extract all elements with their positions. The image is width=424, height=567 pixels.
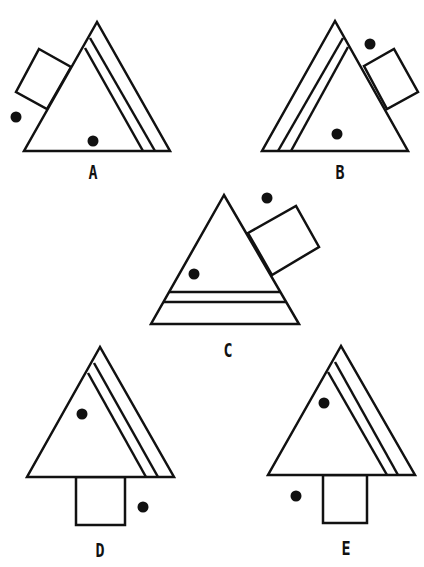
- dot-marker: [138, 502, 149, 513]
- option-label-c: C: [223, 340, 232, 360]
- option-figure-d[interactable]: [27, 347, 174, 525]
- dot-marker: [332, 129, 343, 140]
- square-shape: [323, 475, 367, 523]
- square-shape: [76, 477, 125, 525]
- triangle-shape: [27, 347, 174, 477]
- option-label-e: E: [341, 538, 350, 558]
- option-label-b: B: [335, 162, 344, 182]
- dot-marker: [11, 112, 22, 123]
- dot-marker: [291, 491, 302, 502]
- option-figure-a[interactable]: [11, 22, 171, 151]
- dot-marker: [365, 39, 376, 50]
- triangle-shape: [268, 346, 415, 475]
- dot-marker: [88, 136, 99, 147]
- dot-marker: [77, 409, 88, 420]
- dot-marker: [262, 193, 273, 204]
- option-figure-c[interactable]: [151, 193, 319, 325]
- option-label-a: A: [88, 162, 97, 182]
- dot-marker: [319, 398, 330, 409]
- option-figure-b[interactable]: [262, 21, 418, 151]
- option-label-d: D: [95, 540, 104, 560]
- option-figure-e[interactable]: [268, 346, 415, 523]
- dot-marker: [189, 269, 200, 280]
- puzzle-canvas: [0, 0, 424, 567]
